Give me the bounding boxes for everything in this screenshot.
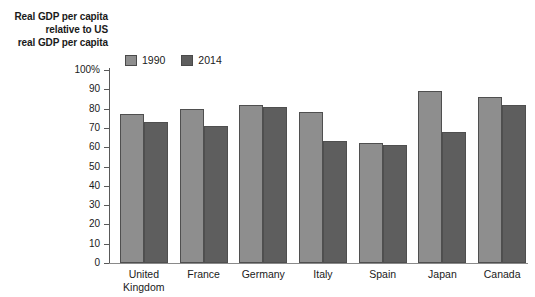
bar-2014-germany: [263, 107, 287, 263]
bar-group: [239, 70, 287, 263]
bar-group: [120, 70, 168, 263]
y-tick-mark: [104, 128, 109, 129]
legend-label-2014: 2014: [198, 55, 221, 66]
bar-2014-japan: [442, 132, 466, 263]
y-tick-mark: [104, 224, 109, 225]
legend-item-2014: 2014: [181, 55, 221, 66]
legend-swatch-2014: [181, 55, 193, 66]
y-tick-mark: [104, 109, 109, 110]
plot-area: [110, 70, 528, 263]
y-tick-mark: [104, 147, 109, 148]
bar-1990-canada: [478, 97, 502, 263]
y-tick-label: 70: [32, 123, 100, 133]
y-tick-label: 20: [32, 219, 100, 229]
bar-2014-france: [204, 126, 228, 263]
y-tick-mark: [104, 70, 109, 71]
x-axis-label-line: Kingdom: [104, 281, 184, 294]
y-tick-label: 50: [32, 162, 100, 172]
y-tick-label: 100%: [32, 65, 100, 75]
bar-1990-germany: [239, 105, 263, 263]
y-tick-mark: [104, 205, 109, 206]
x-axis-label-line: Canada: [462, 268, 535, 281]
y-tick-mark: [104, 263, 109, 264]
y-tick-label: 60: [32, 142, 100, 152]
y-tick-label: 80: [32, 104, 100, 114]
y-tick-mark: [104, 167, 109, 168]
y-tick-label: 90: [32, 84, 100, 94]
legend-swatch-1990: [125, 55, 137, 66]
legend-item-1990: 1990: [125, 55, 165, 66]
bar-group: [418, 70, 466, 263]
bar-1990-japan: [418, 91, 442, 263]
y-tick-label: 0: [32, 258, 100, 268]
bar-1990-italy: [299, 112, 323, 263]
y-tick-mark: [104, 89, 109, 90]
y-tick-mark: [104, 244, 109, 245]
bar-1990-united-kingdom: [120, 114, 144, 263]
y-tick-mark: [104, 186, 109, 187]
legend-label-1990: 1990: [142, 55, 165, 66]
y-tick-label: 40: [32, 181, 100, 191]
bar-2014-united-kingdom: [144, 122, 168, 263]
x-axis-label-canada: Canada: [462, 268, 535, 281]
bar-group: [478, 70, 526, 263]
bar-group: [359, 70, 407, 263]
bar-group: [299, 70, 347, 263]
y-axis-ticks: 0102030405060708090100%: [0, 0, 110, 297]
legend: 1990 2014: [125, 55, 222, 66]
bar-chart-figure: Real GDP per capita relative to US real …: [0, 0, 535, 297]
x-axis-line: [109, 263, 528, 264]
y-tick-label: 10: [32, 239, 100, 249]
bar-1990-france: [180, 109, 204, 263]
bar-2014-canada: [502, 105, 526, 263]
bar-2014-italy: [323, 141, 347, 263]
bar-group: [180, 70, 228, 263]
y-tick-label: 30: [32, 200, 100, 210]
bar-2014-spain: [383, 145, 407, 263]
bar-1990-spain: [359, 143, 383, 263]
